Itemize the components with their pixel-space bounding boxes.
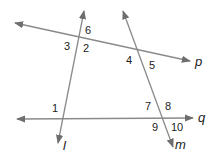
- line-p: [15, 23, 190, 61]
- angle-5: 5: [149, 59, 155, 71]
- angle-8: 8: [165, 100, 171, 112]
- angle-1: 1: [52, 102, 58, 114]
- angle-3: 3: [64, 40, 70, 52]
- label-q: q: [198, 110, 206, 125]
- line-q: [17, 118, 193, 119]
- label-p: p: [194, 54, 202, 69]
- transversal-diagram: p q l m 6 3 2 4 5 1 7 8 9 10: [0, 0, 217, 162]
- label-m: m: [175, 137, 186, 152]
- line-l: [58, 11, 84, 143]
- angle-10: 10: [171, 121, 183, 133]
- angle-6: 6: [85, 24, 91, 36]
- line-m: [123, 11, 173, 147]
- angle-9: 9: [152, 121, 158, 133]
- label-l: l: [63, 138, 67, 153]
- angle-4: 4: [126, 54, 132, 66]
- angle-7: 7: [145, 100, 151, 112]
- angle-2: 2: [83, 42, 89, 54]
